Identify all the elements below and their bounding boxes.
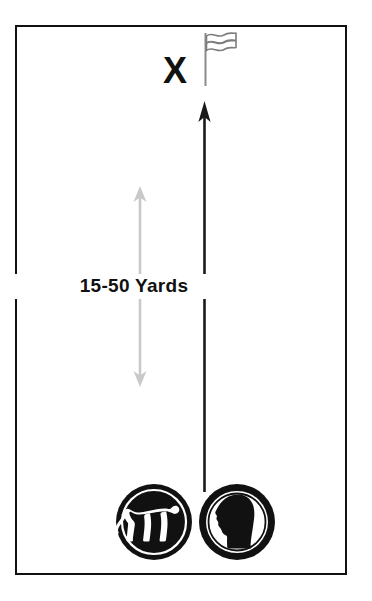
distance-label: 15-50 Yards — [0, 274, 268, 299]
training-field-frame — [15, 25, 347, 575]
x-target-marker: X — [163, 53, 187, 89]
diagram-canvas: X 15-50 Yards — [0, 0, 372, 601]
